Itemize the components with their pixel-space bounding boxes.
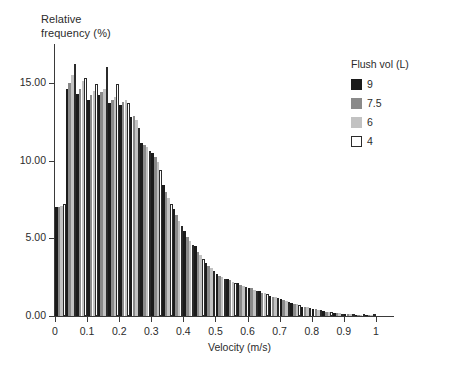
x-tick-label: 1 [361, 325, 391, 337]
x-tick-label: 0.1 [72, 325, 102, 337]
y-axis-title-line1: Relative [41, 13, 82, 25]
legend-label: 6 [367, 117, 373, 128]
x-tick-mark [344, 317, 345, 322]
x-axis-title: Velocity (m/s) [0, 341, 449, 353]
y-tick-label: 0.00 [26, 309, 46, 321]
x-tick-label: 0.7 [265, 325, 295, 337]
y-axis-title: Relativefrequency (%) [41, 12, 111, 40]
x-tick-label: 0.4 [168, 325, 198, 337]
y-tick-label: 10.00 [20, 154, 46, 166]
legend-title: Flush vol (L) [351, 58, 409, 70]
x-tick-mark [151, 317, 152, 322]
legend-entries: 97.564 [351, 75, 409, 151]
legend-swatch [351, 79, 362, 90]
x-tick-mark [119, 317, 120, 322]
x-tick-mark [376, 317, 377, 322]
x-tick-label: 0.3 [136, 325, 166, 337]
legend-swatch [351, 98, 362, 109]
x-tick-mark [215, 317, 216, 322]
legend: Flush vol (L) 97.564 [351, 58, 409, 151]
bar-series-container [55, 44, 392, 316]
x-tick-label: 0.9 [329, 325, 359, 337]
y-tick-label: 5.00 [26, 231, 46, 243]
x-tick-label: 0 [40, 325, 70, 337]
legend-label: 9 [367, 79, 373, 90]
x-tick-label: 0.8 [297, 325, 327, 337]
x-tick-label: 0.2 [104, 325, 134, 337]
legend-swatch [351, 117, 362, 128]
legend-entry: 6 [351, 113, 409, 132]
legend-entry: 4 [351, 132, 409, 151]
legend-label: 4 [367, 136, 373, 147]
x-tick-mark [248, 317, 249, 322]
x-tick-label: 0.5 [200, 325, 230, 337]
legend-label: 7.5 [367, 98, 382, 109]
legend-swatch [351, 136, 362, 147]
legend-entry: 7.5 [351, 94, 409, 113]
chart-figure: Relativefrequency (%) 0.005.0010.0015.00… [0, 0, 449, 367]
x-tick-mark [183, 317, 184, 322]
y-axis-title-line2: frequency (%) [41, 27, 111, 39]
bar [373, 314, 376, 316]
y-tick-label: 15.00 [20, 76, 46, 88]
x-tick-mark [55, 317, 56, 322]
x-tick-label: 0.6 [233, 325, 263, 337]
x-tick-mark [312, 317, 313, 322]
x-tick-mark [280, 317, 281, 322]
legend-entry: 9 [351, 75, 409, 94]
x-tick-mark [87, 317, 88, 322]
